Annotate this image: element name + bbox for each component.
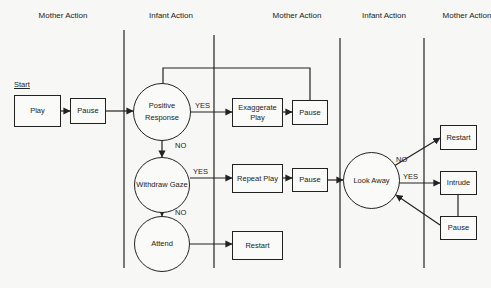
node-positive-response: Positive Response <box>133 83 191 141</box>
node-pause-1: Pause <box>70 98 106 124</box>
node-restart-1: Restart <box>232 231 283 260</box>
start-label: Start <box>14 80 30 89</box>
node-withdraw-gaze: Withdraw Gaze <box>134 157 190 213</box>
node-pause-2: Pause <box>292 100 328 125</box>
node-intrude: Intrude <box>440 171 477 195</box>
edge-label-wg-no: NO <box>175 208 186 217</box>
node-pause-3: Pause <box>292 168 328 192</box>
edge-label-la-no: NO <box>396 155 407 164</box>
column-header-mother-2: Mother Action <box>273 11 322 20</box>
node-play: Play <box>14 95 61 127</box>
column-header-mother-1: Mother Action <box>39 11 88 20</box>
node-pause-4: Pause <box>440 216 477 240</box>
column-header-infant-2: Infant Action <box>362 11 406 20</box>
node-repeat-play: Repeat Play <box>232 164 283 193</box>
edge-label-la-yes: YES <box>403 172 418 181</box>
edge-label-wg-yes: YES <box>193 167 208 176</box>
edge-label-pr-no: NO <box>175 141 186 150</box>
column-header-infant-1: Infant Action <box>149 11 193 20</box>
node-exaggerate-play: Exaggerate Play <box>232 98 283 127</box>
node-attend: Attend <box>134 216 190 272</box>
node-restart-2: Restart <box>440 125 477 150</box>
column-header-mother-3: Mother Action <box>443 11 491 20</box>
node-look-away: Look Away <box>343 152 400 209</box>
edge-label-pr-yes: YES <box>195 101 210 110</box>
